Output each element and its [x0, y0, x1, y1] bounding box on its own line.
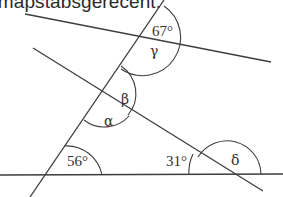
steep-line [30, 0, 164, 197]
angle-arc-31 [189, 154, 193, 175]
top-line [25, 14, 271, 62]
angle-label-31: 31° [166, 153, 187, 169]
angle-label-67: 67° [152, 23, 173, 39]
angle-label-gamma: γ [150, 43, 158, 59]
middle-diagonal-line [33, 48, 263, 191]
angle-label-56: 56° [67, 153, 88, 169]
angle-label-delta: δ [231, 152, 239, 168]
geometry-diagram: 67° γ β α 56° 31° δ [0, 0, 283, 197]
angle-label-alpha: α [104, 113, 114, 129]
horizontal-line [0, 174, 283, 175]
angle-arc-top [121, 6, 181, 76]
angle-arc-delta [198, 141, 261, 174]
angle-label-beta: β [121, 91, 129, 107]
